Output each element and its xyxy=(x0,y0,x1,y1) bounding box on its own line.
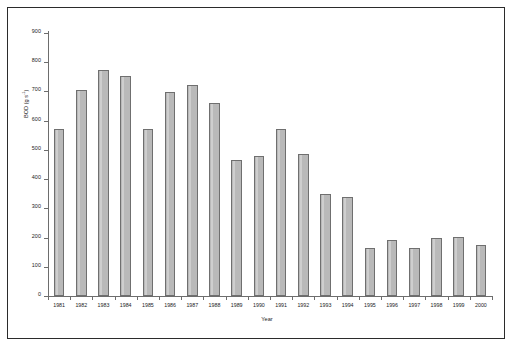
x-tick-mark xyxy=(314,296,315,300)
bar-chart-figure: 0100200300400500600700800900 19811982198… xyxy=(0,0,512,346)
bar xyxy=(431,238,442,296)
x-tick-label: 1998 xyxy=(426,302,448,309)
x-tick-mark xyxy=(159,296,160,300)
x-tick-mark xyxy=(226,296,227,300)
y-tick: 0 xyxy=(0,296,48,297)
x-tick-mark xyxy=(70,296,71,300)
x-tick-mark xyxy=(270,296,271,300)
bar xyxy=(365,248,376,296)
x-tick-label: 1996 xyxy=(381,302,403,309)
y-tick: 400 xyxy=(0,179,48,180)
y-tick-label: 800 xyxy=(32,57,41,63)
bar xyxy=(476,245,487,296)
y-tick-label: 900 xyxy=(32,28,41,34)
y-tick-mark xyxy=(44,179,48,180)
x-tick-mark xyxy=(115,296,116,300)
y-tick: 100 xyxy=(0,267,48,268)
y-tick-mark xyxy=(44,267,48,268)
x-tick-mark xyxy=(492,296,493,300)
x-tick-mark xyxy=(137,296,138,300)
x-tick-mark xyxy=(48,296,49,300)
y-tick-mark xyxy=(44,33,48,34)
bar xyxy=(298,154,309,296)
x-tick-mark xyxy=(181,296,182,300)
y-tick-label: 300 xyxy=(32,203,41,209)
y-tick: 500 xyxy=(0,150,48,151)
x-tick-label: 1990 xyxy=(248,302,270,309)
x-tick-mark xyxy=(359,296,360,300)
x-tick-mark xyxy=(470,296,471,300)
y-tick-label: 0 xyxy=(38,291,41,297)
x-tick-mark xyxy=(337,296,338,300)
y-tick-mark xyxy=(44,208,48,209)
x-tick-mark xyxy=(292,296,293,300)
x-tick-mark xyxy=(203,296,204,300)
x-tick-label: 1999 xyxy=(448,302,470,309)
bar xyxy=(453,237,464,296)
bar xyxy=(209,103,220,296)
x-tick-label: 1989 xyxy=(226,302,248,309)
x-tick-mark xyxy=(448,296,449,300)
y-tick: 600 xyxy=(0,121,48,122)
bar xyxy=(143,129,154,296)
bar xyxy=(342,197,353,296)
y-tick-mark xyxy=(44,121,48,122)
y-tick-mark xyxy=(44,238,48,239)
y-tick-label: 700 xyxy=(32,86,41,92)
bar xyxy=(187,85,198,296)
x-tick-label: 1993 xyxy=(315,302,337,309)
x-tick-label: 1985 xyxy=(137,302,159,309)
x-tick-label: 1982 xyxy=(70,302,92,309)
x-tick-label: 1994 xyxy=(337,302,359,309)
x-tick-label: 1981 xyxy=(48,302,70,309)
bar xyxy=(231,160,242,296)
y-tick: 900 xyxy=(0,33,48,34)
bar xyxy=(76,90,87,296)
y-tick-mark xyxy=(44,150,48,151)
bar xyxy=(54,129,65,296)
x-tick-label: 1983 xyxy=(93,302,115,309)
y-axis-line xyxy=(48,31,49,297)
y-tick: 300 xyxy=(0,208,48,209)
x-tick-mark xyxy=(403,296,404,300)
y-tick-label: 500 xyxy=(32,145,41,151)
x-tick-label: 2000 xyxy=(470,302,492,309)
bar xyxy=(98,70,109,296)
x-tick-label: 1997 xyxy=(403,302,425,309)
y-tick-label: 200 xyxy=(32,233,41,239)
bar xyxy=(254,156,265,296)
y-tick-mark xyxy=(44,62,48,63)
x-tick-label: 1995 xyxy=(359,302,381,309)
x-tick-label: 1988 xyxy=(204,302,226,309)
bar xyxy=(120,76,131,296)
x-axis-title: Year xyxy=(0,316,512,323)
x-tick-label: 1991 xyxy=(270,302,292,309)
y-tick-mark xyxy=(44,91,48,92)
x-tick-mark xyxy=(248,296,249,300)
x-tick-label: 1984 xyxy=(115,302,137,309)
y-axis-title-exponent: -1 xyxy=(21,91,26,95)
bar xyxy=(276,129,287,296)
y-axis-title: BOD (g s-1) xyxy=(20,38,30,118)
x-tick-mark xyxy=(425,296,426,300)
x-tick-label: 1992 xyxy=(292,302,314,309)
bar xyxy=(409,248,420,296)
y-tick-label: 100 xyxy=(32,262,41,268)
bar xyxy=(320,194,331,296)
x-tick-mark xyxy=(381,296,382,300)
x-tick-label: 1986 xyxy=(159,302,181,309)
y-tick-label: 400 xyxy=(32,174,41,180)
bar xyxy=(387,240,398,296)
bar xyxy=(165,92,176,296)
x-tick-mark xyxy=(92,296,93,300)
y-tick: 200 xyxy=(0,238,48,239)
x-tick-label: 1987 xyxy=(181,302,203,309)
y-tick-label: 600 xyxy=(32,116,41,122)
